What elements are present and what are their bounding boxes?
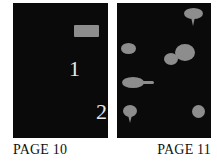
speech-balloon-cluster-small[interactable] — [164, 53, 178, 65]
left-page-panel-1[interactable]: 1 2 — [13, 3, 108, 138]
right-page-panel-r3c1[interactable] — [119, 73, 209, 100]
right-page-caption: PAGE 11 — [157, 142, 211, 158]
right-page-panel-r1c1[interactable] — [119, 5, 175, 38]
page-layout-diagram: 1 2 3 PAGE — [0, 0, 217, 164]
panel-numeral-1: 1 — [69, 58, 80, 80]
right-page-panel-r4c2[interactable] — [159, 102, 209, 136]
speech-balloon-cluster-large[interactable] — [175, 44, 195, 61]
balloon-pointer-icon — [142, 81, 154, 84]
right-page-panel-r1c2[interactable] — [177, 5, 209, 38]
caption-box-balloon[interactable] — [74, 25, 99, 37]
speech-balloon[interactable] — [122, 77, 144, 88]
panel-numeral-2: 2 — [96, 101, 107, 123]
right-page-container: 3 — [117, 3, 211, 138]
speech-balloon[interactable] — [121, 43, 136, 54]
right-page-panel-r4c1[interactable] — [119, 102, 157, 136]
balloon-tail-icon — [128, 115, 132, 123]
left-page-caption: PAGE 10 — [13, 142, 67, 158]
balloon-tail-icon — [191, 17, 195, 26]
speech-balloon[interactable] — [192, 105, 205, 118]
